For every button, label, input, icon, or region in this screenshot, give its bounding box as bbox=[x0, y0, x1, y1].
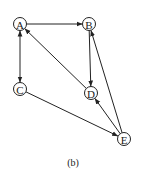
node-a: A bbox=[14, 18, 27, 31]
edge-b-d bbox=[89, 30, 91, 86]
figure-caption: (b) bbox=[67, 157, 79, 169]
edge-e-d bbox=[95, 98, 120, 133]
node-d: D bbox=[85, 87, 98, 100]
nodes: ABCDE bbox=[14, 18, 131, 146]
edges bbox=[20, 24, 122, 136]
node-e: E bbox=[118, 133, 131, 146]
node-label: B bbox=[85, 19, 92, 31]
node-label: D bbox=[87, 88, 95, 100]
node-b: B bbox=[83, 18, 96, 31]
edge-d-a bbox=[25, 29, 87, 89]
directed-graph: ABCDE (b) bbox=[0, 0, 141, 171]
node-c: C bbox=[14, 83, 27, 96]
node-label: C bbox=[16, 84, 23, 96]
node-label: E bbox=[121, 134, 128, 146]
node-label: A bbox=[16, 19, 24, 31]
edge-c-e bbox=[26, 92, 118, 136]
edge-e-b bbox=[91, 30, 122, 133]
